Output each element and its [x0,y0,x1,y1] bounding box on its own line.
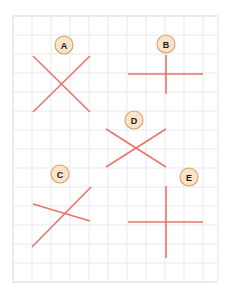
shape-marker-b: B [157,35,175,53]
shapes-figure: ABCDE [0,0,235,292]
shape-marker-d: D [125,111,143,129]
marker-label-c: C [57,170,64,180]
figure-canvas: ABCDE [0,0,235,292]
shape-segment [33,204,90,221]
shape-b [128,55,203,94]
marker-label-a: A [61,41,68,51]
shape-e [128,186,203,258]
grid-layer [13,16,218,282]
marker-label-d: D [131,116,138,126]
shape-c [32,187,91,247]
shape-marker-e: E [180,168,198,186]
shape-a [33,56,90,112]
shape-d [106,129,166,167]
marker-label-b: B [163,40,170,50]
shape-segment [32,187,91,247]
shape-marker-a: A [55,36,73,54]
shape-marker-c: C [51,165,69,183]
marker-label-e: E [186,173,192,183]
shape-layer [32,55,203,258]
